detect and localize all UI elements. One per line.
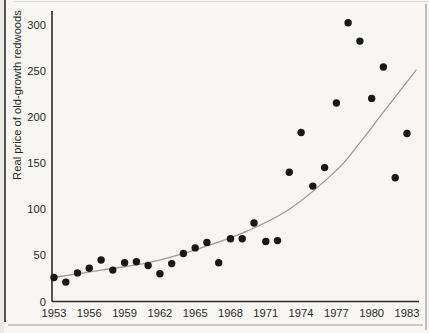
data-point: [333, 99, 340, 106]
scan-border-bottom: [8, 324, 423, 326]
data-point: [239, 235, 246, 242]
x-tick-label: 1956: [77, 307, 102, 319]
x-tick-label: 1980: [359, 307, 384, 319]
data-point-layer: [50, 19, 410, 286]
data-point: [203, 239, 210, 246]
y-tick-label: 100: [27, 203, 46, 215]
data-point: [286, 169, 293, 176]
y-tick-label: 300: [27, 19, 46, 31]
data-point: [133, 258, 140, 265]
data-point: [62, 278, 69, 285]
x-tick-label: 1962: [147, 307, 172, 319]
data-point: [180, 250, 187, 257]
y-tick-label: 150: [27, 157, 46, 169]
data-point: [97, 256, 104, 263]
figure-page: 0501001502002503001953195619591962196519…: [0, 0, 429, 333]
trend-curve: [54, 70, 416, 278]
data-point: [74, 269, 81, 276]
data-point: [309, 182, 316, 189]
axis-layer: [52, 11, 419, 302]
x-tick-label: 1974: [289, 307, 314, 319]
data-point: [192, 244, 199, 251]
y-axis-title: Real price of old-growth redwoods: [11, 10, 23, 180]
y-tick-label: 200: [27, 111, 46, 123]
x-tick-label: 1971: [253, 307, 278, 319]
scatter-plot: 0501001502002503001953195619591962196519…: [0, 0, 429, 333]
y-tick-label: 50: [34, 249, 46, 261]
data-point: [392, 174, 399, 181]
tick-label-layer: 0501001502002503001953195619591962196519…: [27, 19, 419, 319]
trend-curve-layer: [54, 70, 416, 278]
data-point: [262, 238, 269, 245]
data-point: [274, 237, 281, 244]
data-point: [109, 266, 116, 273]
data-point: [121, 259, 128, 266]
data-point: [50, 274, 57, 281]
data-point: [344, 19, 351, 26]
x-tick-label: 1953: [42, 307, 67, 319]
data-point: [356, 37, 363, 44]
data-point: [403, 130, 410, 137]
data-point: [227, 235, 234, 242]
data-point: [144, 262, 151, 269]
x-tick-label: 1965: [183, 307, 208, 319]
scan-border-left: [4, 0, 6, 322]
data-point: [380, 63, 387, 70]
data-point: [297, 129, 304, 136]
data-point: [368, 95, 375, 102]
data-point: [321, 164, 328, 171]
x-tick-label: 1983: [395, 307, 420, 319]
scan-border-top: [14, 1, 429, 2]
data-point: [168, 260, 175, 267]
data-point: [86, 265, 93, 272]
x-tick-label: 1968: [218, 307, 243, 319]
x-tick-label: 1977: [324, 307, 349, 319]
y-tick-label: 250: [27, 65, 46, 77]
scan-border-right: [425, 4, 427, 330]
data-point: [215, 259, 222, 266]
data-point: [156, 270, 163, 277]
data-point: [250, 219, 257, 226]
x-tick-label: 1959: [112, 307, 137, 319]
